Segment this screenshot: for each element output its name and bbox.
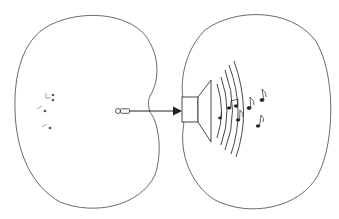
arrow-connector [130,107,183,116]
plug-icon [116,109,130,114]
speaker-icon [182,80,211,142]
left-notes-icon [37,93,54,129]
diagram-canvas: Two kidney-shaped outlines; left contain… [0,0,339,219]
diagram-svg [0,0,339,219]
left-region-outline [15,15,159,208]
